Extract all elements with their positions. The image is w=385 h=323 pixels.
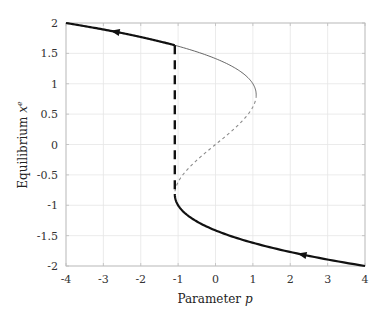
x-axis-label-text: Parameter bbox=[177, 292, 245, 306]
y-axis-label-text: Equilibrium bbox=[16, 113, 30, 189]
y-tick-label: -2 bbox=[47, 260, 58, 273]
x-tick-label: 3 bbox=[324, 273, 331, 286]
y-tick-label: 1.5 bbox=[41, 47, 59, 60]
x-tick-label: -4 bbox=[61, 273, 72, 286]
y-tick-labels: -2-1.5-1-0.500.511.52 bbox=[37, 17, 58, 273]
y-tick-label: -1 bbox=[47, 199, 58, 212]
direction-arrows bbox=[111, 29, 307, 259]
x-tick-labels: -4-3-2-101234 bbox=[61, 273, 369, 286]
x-tick-label: 4 bbox=[362, 273, 369, 286]
x-tick-label: -1 bbox=[173, 273, 184, 286]
x-tick-label: 0 bbox=[212, 273, 219, 286]
x-tick-label: -2 bbox=[135, 273, 146, 286]
y-tick-label: 0.5 bbox=[41, 108, 59, 121]
x-tick-label: 1 bbox=[249, 273, 256, 286]
y-axis-label-sup: e bbox=[15, 101, 24, 106]
y-tick-label: 0 bbox=[51, 139, 58, 152]
y-tick-label: 1 bbox=[51, 78, 58, 91]
x-axis-label: Parameter p bbox=[177, 292, 253, 306]
x-tick-label: -3 bbox=[98, 273, 109, 286]
x-tick-label: 2 bbox=[287, 273, 294, 286]
bifurcation-chart: -4-3-2-101234 -2-1.5-1-0.500.511.52 Para… bbox=[0, 0, 385, 323]
y-tick-label: -0.5 bbox=[37, 169, 58, 182]
y-tick-label: 2 bbox=[51, 17, 58, 30]
x-axis-label-var: p bbox=[245, 292, 253, 306]
y-tick-label: -1.5 bbox=[37, 230, 58, 243]
y-axis-label: Equilibrium xe bbox=[15, 101, 30, 189]
upper-stable-branch-thick bbox=[66, 23, 175, 45]
